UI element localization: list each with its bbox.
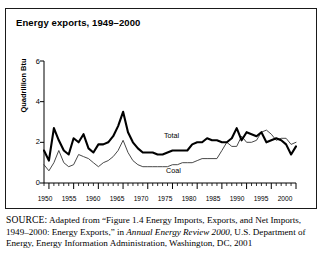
figure-root: Energy exports, 1949–2000 Quadrillion Bt…: [0, 0, 323, 273]
chart-svg: [6, 9, 318, 210]
x-axis-major-ticks: [49, 183, 296, 189]
source-label: SOURCE:: [6, 214, 47, 225]
source-note: SOURCE: Adapted from “Figure 1.4 Energy …: [6, 214, 318, 250]
source-publication-title: Annual Energy Review 2000: [126, 227, 229, 237]
series-line-total: [44, 112, 296, 161]
y-axis-ticks: [40, 61, 44, 183]
chart-plot-area: Quadrillion Btu 6 4 2 0 1950 1955 1960 1…: [6, 9, 318, 210]
figure-box: Energy exports, 1949–2000 Quadrillion Bt…: [5, 8, 317, 209]
